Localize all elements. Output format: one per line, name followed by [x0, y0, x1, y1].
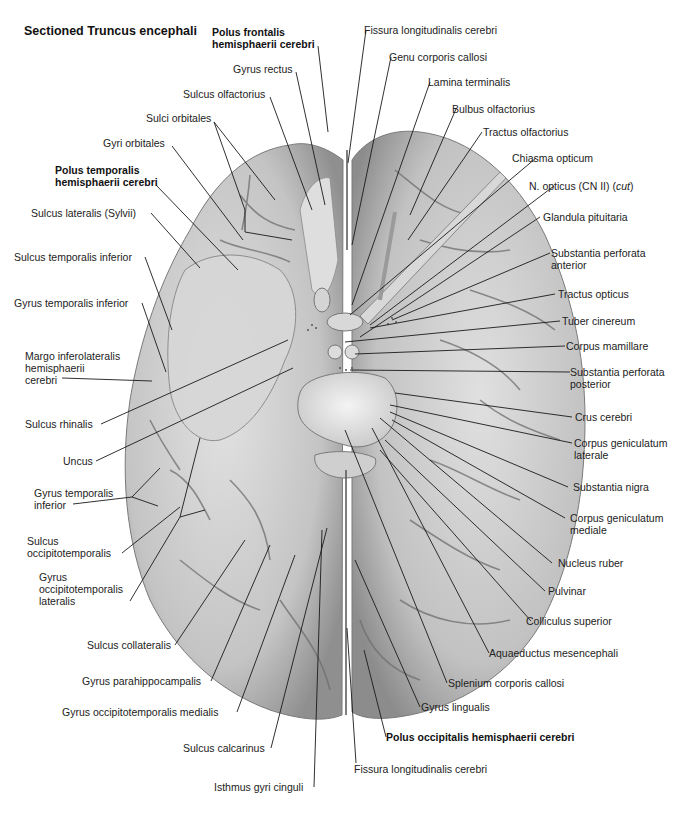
label-pulvinar: Pulvinar	[548, 585, 586, 597]
label-sulci-orbitales: Sulci orbitales	[146, 112, 211, 124]
label-corpus-mamillare: Corpus mamillare	[566, 340, 648, 352]
label-corpus-geniculatum-laterale: Corpus geniculatum laterale	[574, 437, 667, 461]
label-margo-inferolateralis: Margo inferolateralis hemisphaerii cereb…	[25, 350, 120, 386]
label-fissura-longitudinalis-top: Fissura longitudinalis cerebri	[364, 24, 497, 36]
label-tuber-cinereum: Tuber cinereum	[562, 315, 635, 327]
label-isthmus-gyri-cinguli: Isthmus gyri cinguli	[214, 781, 303, 793]
label-gyrus-occipitotemporalis-lateralis: Gyrus occipitotemporalis lateralis	[39, 571, 123, 607]
label-bulbus-olfactorius: Bulbus olfactorius	[452, 103, 535, 115]
label-uncus: Uncus	[63, 455, 93, 467]
label-sulcus-collateralis: Sulcus collateralis	[87, 639, 171, 651]
label-polus-frontalis: Polus frontalis hemisphaerii cerebri	[212, 26, 315, 50]
label-nucleus-ruber: Nucleus ruber	[558, 557, 623, 569]
label-sulcus-rhinalis: Sulcus rhinalis	[25, 418, 93, 430]
label-substantia-perforata-anterior: Substantia perforata anterior	[551, 247, 646, 271]
label-tractus-olfactorius: Tractus olfactorius	[483, 126, 568, 138]
label-gyrus-occipitotemporalis-medialis: Gyrus occipitotemporalis medialis	[62, 706, 218, 718]
mamillary-left	[328, 345, 342, 359]
label-sulcus-calcarinus: Sulcus calcarinus	[183, 742, 265, 754]
label-sulcus-occipitotemporalis: Sulcus occipitotemporalis	[27, 535, 111, 559]
label-polus-temporalis: Polus temporalis hemisphaerii cerebri	[55, 164, 158, 188]
label-gyrus-temporalis-inferior-2: Gyrus temporalis inferior	[34, 487, 113, 511]
label-gyrus-parahippocampalis: Gyrus parahippocampalis	[82, 675, 201, 687]
label-n-opticus: N. opticus (CN II) (cut)	[529, 180, 633, 192]
label-gyrus-lingualis: Gyrus lingualis	[421, 701, 490, 713]
label-substantia-perforata-posterior: Substantia perforata posterior	[570, 366, 665, 390]
label-aquaeductus-mesencephali: Aquaeductus mesencephali	[489, 647, 618, 659]
label-splenium-corporis-callosi: Splenium corporis callosi	[448, 677, 564, 689]
label-gyrus-rectus: Gyrus rectus	[233, 63, 293, 75]
label-polus-occipitalis: Polus occipitalis hemisphaerii cerebri	[386, 731, 575, 743]
label-crus-cerebri: Crus cerebri	[575, 411, 632, 423]
label-chiasma-opticum: Chiasma opticum	[512, 152, 593, 164]
label-lamina-terminalis: Lamina terminalis	[428, 76, 510, 88]
pituitary-stalk	[314, 288, 330, 312]
label-tractus-opticus: Tractus opticus	[558, 288, 629, 300]
brain-inferior-view-figure: Sectioned Truncus encephali	[0, 0, 691, 815]
label-sulcus-temporalis-inferior: Sulcus temporalis inferior	[14, 251, 132, 263]
label-gyrus-temporalis-inferior: Gyrus temporalis inferior	[14, 297, 128, 309]
label-sulcus-lateralis: Sulcus lateralis (Sylvii)	[31, 207, 136, 219]
label-glandula-pituitaria: Glandula pituitaria	[543, 211, 628, 223]
label-substantia-nigra: Substantia nigra	[573, 481, 649, 493]
label-genu-corporis-callosi: Genu corporis callosi	[389, 51, 487, 63]
mamillary-right	[345, 345, 359, 359]
label-corpus-geniculatum-mediale: Corpus geniculatum mediale	[570, 512, 663, 536]
brain-illustration	[0, 0, 691, 815]
label-fissura-longitudinalis-bottom: Fissura longitudinalis cerebri	[354, 763, 487, 775]
label-sulcus-olfactorius: Sulcus olfactorius	[183, 88, 265, 100]
label-gyri-orbitales: Gyri orbitales	[103, 137, 165, 149]
chiasma-shape	[327, 313, 363, 331]
label-colliculus-superior: Colliculus superior	[526, 615, 612, 627]
